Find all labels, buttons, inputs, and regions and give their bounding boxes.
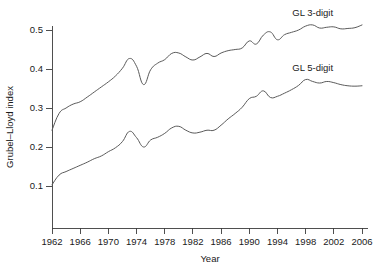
line-chart-canvas: 0.10.20.30.40.5 196219661970197419781982… <box>0 0 383 275</box>
x-tick-label: 1962 <box>41 236 62 247</box>
x-tick-marks <box>52 228 362 234</box>
y-tick-label: 0.2 <box>30 141 43 152</box>
y-tick-label: 0.1 <box>30 180 43 191</box>
x-tick-label: 1966 <box>70 236 91 247</box>
x-tick-label: 1978 <box>154 236 175 247</box>
y-tick-marks <box>46 30 52 186</box>
x-tick-label: 1970 <box>98 236 119 247</box>
x-axis-title: Year <box>200 253 219 264</box>
x-tick-label: 2006 <box>351 236 372 247</box>
y-tick-labels: 0.10.20.30.40.5 <box>30 24 43 191</box>
x-tick-label: 1986 <box>211 236 232 247</box>
series-label-2: GL 5-digit <box>292 62 333 73</box>
chart-figure: 0.10.20.30.40.5 196219661970197419781982… <box>0 0 383 275</box>
y-tick-label: 0.4 <box>30 63 43 74</box>
y-tick-label: 0.3 <box>30 102 43 113</box>
series-labels: GL 3-digitGL 5-digit <box>292 7 333 73</box>
x-tick-label: 1974 <box>126 236 147 247</box>
x-tick-label: 1982 <box>182 236 203 247</box>
x-tick-label: 2002 <box>323 236 344 247</box>
series-line-2 <box>52 79 362 185</box>
x-tick-label: 1998 <box>295 236 316 247</box>
x-tick-label: 1990 <box>239 236 260 247</box>
x-tick-labels: 1962196619701974197819821986199019941998… <box>41 236 372 247</box>
y-axis-title: Grubel–Lloyd index <box>4 86 15 168</box>
series-label-1: GL 3-digit <box>292 7 333 18</box>
series-line-1 <box>52 25 362 130</box>
y-tick-label: 0.5 <box>30 24 43 35</box>
x-tick-label: 1994 <box>267 236 288 247</box>
series-paths <box>52 25 362 185</box>
